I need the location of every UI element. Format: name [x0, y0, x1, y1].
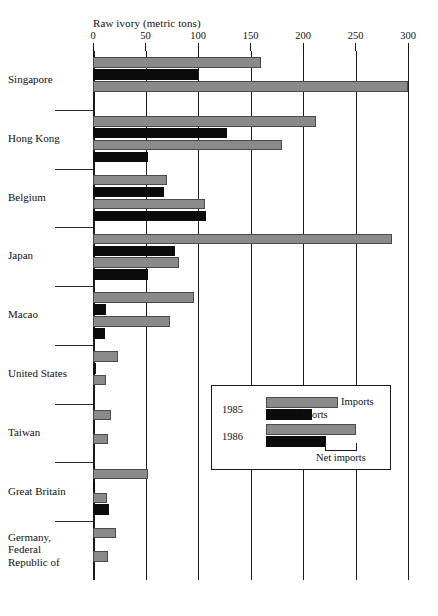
- group-separator-3: [55, 227, 93, 228]
- x-tick-mark-300: [408, 43, 409, 51]
- bar-belgium-1985-imports: [93, 175, 167, 186]
- bar-germany-federal-republic-of-1985-imports: [93, 528, 116, 539]
- bar-japan-1985-imports: [93, 234, 392, 245]
- bar-belgium-1986-imports: [93, 199, 205, 210]
- country-label-belgium: Belgium: [8, 191, 46, 204]
- bar-united-states-1985-imports: [93, 351, 118, 362]
- country-label-hong-kong: Hong Kong: [8, 132, 60, 145]
- country-label-united-states: United States: [8, 367, 67, 380]
- bar-hong-kong-1986-imports: [93, 140, 282, 151]
- legend-swatch-1986-imports: [266, 424, 356, 435]
- bar-macao-1985-exports: [93, 304, 106, 315]
- gridline-250: [356, 51, 357, 580]
- plot-area: [93, 51, 408, 580]
- country-label-great-britain: Great Britain: [8, 485, 66, 498]
- x-tick-mark-0: [93, 43, 94, 51]
- bar-great-britain-1986-exports: [93, 504, 109, 515]
- bar-hong-kong-1985-exports: [93, 128, 227, 139]
- ivory-trade-bar-chart: Raw ivory (metric tons) 0501001502002503…: [0, 0, 438, 616]
- net-imports-bracket-icon: [325, 443, 357, 451]
- x-tick-mark-200: [303, 43, 304, 51]
- group-separator-1: [55, 110, 93, 111]
- bar-japan-1986-imports: [93, 257, 179, 268]
- x-tick-mark-250: [355, 43, 356, 51]
- bar-macao-1986-exports: [93, 328, 105, 339]
- bar-singapore-1985-imports: [93, 57, 261, 68]
- legend-swatch-1986-exports: [266, 436, 326, 447]
- bar-great-britain-1985-exports: [93, 481, 95, 492]
- legend-swatch-1985-imports: [266, 397, 338, 408]
- bar-singapore-1986-imports: [93, 81, 408, 92]
- legend-label-exports: Exports: [295, 409, 328, 420]
- country-label-singapore: Singapore: [8, 73, 53, 86]
- bar-singapore-1985-exports: [93, 69, 198, 80]
- bar-germany-federal-republic-of-1986-imports: [93, 551, 108, 562]
- group-separator-7: [55, 462, 93, 463]
- bar-hong-kong-1985-imports: [93, 116, 316, 127]
- gridline-150: [251, 51, 252, 580]
- country-label-taiwan: Taiwan: [8, 426, 40, 439]
- chart-legend: 1985 Imports Exports 1986 Net imports: [211, 385, 391, 470]
- x-tick-label-250: 250: [348, 30, 364, 41]
- bar-great-britain-1985-imports: [93, 469, 148, 480]
- x-tick-label-150: 150: [243, 30, 259, 41]
- group-separator-6: [55, 404, 93, 405]
- gridline-200: [303, 51, 304, 580]
- group-separator-2: [55, 169, 93, 170]
- bar-taiwan-1986-imports: [93, 434, 108, 445]
- x-tick-mark-50: [145, 43, 146, 51]
- legend-label-net-imports: Net imports: [316, 452, 366, 463]
- gridline-300: [408, 51, 409, 580]
- bar-belgium-1986-exports: [93, 211, 206, 222]
- legend-year-1986: 1986: [222, 431, 243, 442]
- bar-taiwan-1985-imports: [93, 410, 111, 421]
- country-label-germany-federal-republic-of: Germany, Federal Republic of: [8, 531, 60, 569]
- legend-label-imports: Imports: [341, 396, 374, 407]
- country-label-macao: Macao: [8, 308, 38, 321]
- legend-year-1985: 1985: [222, 404, 243, 415]
- bar-united-states-1985-exports: [93, 363, 96, 374]
- group-separator-8: [55, 521, 93, 522]
- bar-hong-kong-1986-exports: [93, 152, 148, 163]
- axis-title: Raw ivory (metric tons): [93, 17, 201, 29]
- group-separator-4: [55, 286, 93, 287]
- x-tick-label-100: 100: [190, 30, 206, 41]
- bar-belgium-1985-exports: [93, 187, 164, 198]
- bar-macao-1985-imports: [93, 292, 194, 303]
- x-tick-label-50: 50: [140, 30, 151, 41]
- bar-united-states-1986-imports: [93, 375, 106, 386]
- bar-japan-1986-exports: [93, 269, 148, 280]
- x-tick-mark-150: [250, 43, 251, 51]
- x-tick-label-200: 200: [295, 30, 311, 41]
- bar-macao-1986-imports: [93, 316, 170, 327]
- bar-japan-1985-exports: [93, 246, 175, 257]
- group-separator-5: [55, 345, 93, 346]
- bar-great-britain-1986-imports: [93, 493, 107, 504]
- x-tick-mark-100: [198, 43, 199, 51]
- x-tick-label-300: 300: [400, 30, 416, 41]
- x-tick-label-0: 0: [90, 30, 95, 41]
- country-label-japan: Japan: [8, 249, 33, 262]
